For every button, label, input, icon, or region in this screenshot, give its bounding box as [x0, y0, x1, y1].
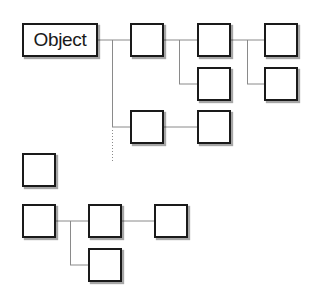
node-e[interactable] — [264, 67, 298, 101]
node-c[interactable] — [197, 67, 231, 101]
node-l[interactable] — [88, 248, 122, 282]
node-i[interactable] — [22, 204, 56, 238]
node-object-label: Object — [33, 29, 86, 51]
node-a[interactable] — [130, 23, 164, 57]
node-j[interactable] — [88, 204, 122, 238]
node-b[interactable] — [197, 23, 231, 57]
node-g[interactable] — [197, 110, 231, 144]
node-d[interactable] — [264, 23, 298, 57]
node-h-standalone[interactable] — [22, 153, 56, 187]
node-k[interactable] — [154, 204, 188, 238]
node-object-root[interactable]: Object — [22, 23, 98, 57]
hierarchy-diagram: Object — [0, 0, 318, 306]
node-f[interactable] — [130, 110, 164, 144]
